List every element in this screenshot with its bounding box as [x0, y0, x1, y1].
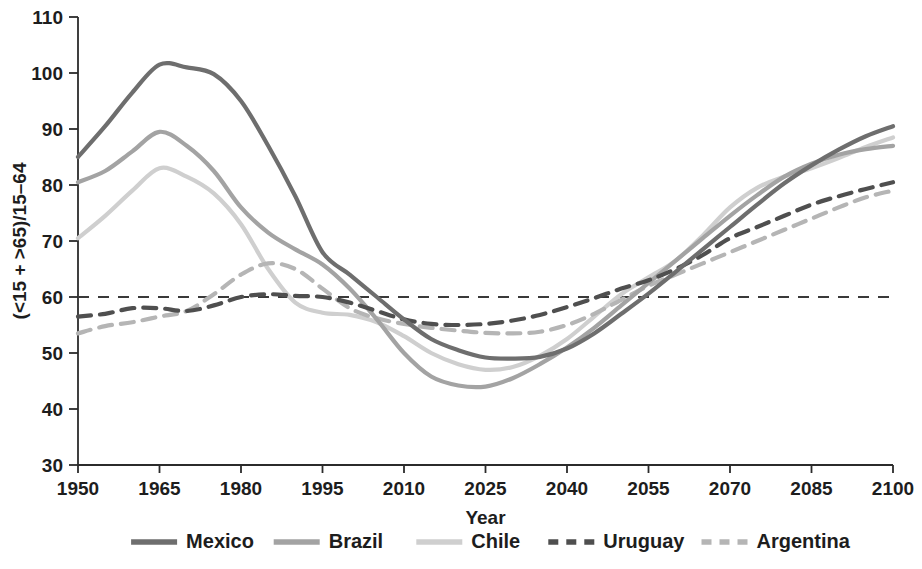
y-tick-label: 100: [31, 63, 63, 84]
y-tick-label: 30: [42, 455, 63, 476]
x-tick-label: 1965: [138, 478, 181, 499]
x-tick-label: 2100: [872, 478, 914, 499]
y-tick-label: 40: [42, 399, 63, 420]
x-tick-label: 2025: [464, 478, 507, 499]
series-line-uruguay: [78, 182, 893, 325]
series-line-mexico: [78, 63, 893, 359]
y-tick-label: 50: [42, 343, 63, 364]
axis-titles: (<15 + >65)/15–64 Year: [9, 162, 506, 528]
legend-label: Brazil: [329, 530, 383, 552]
x-tick-label: 1995: [301, 478, 344, 499]
legend-item-mexico[interactable]: Mexico: [131, 530, 254, 552]
x-tick-label: 1950: [57, 478, 99, 499]
legend-item-argentina[interactable]: Argentina: [702, 530, 851, 552]
y-tick-label: 110: [32, 7, 63, 28]
x-tick-label: 2085: [790, 478, 833, 499]
legend-label: Chile: [471, 530, 520, 552]
y-axis: 30405060708090100110: [31, 7, 78, 476]
x-tick-label: 1980: [220, 478, 262, 499]
series-lines: [78, 63, 893, 387]
legend-label: Mexico: [186, 530, 254, 552]
x-axis: 1950196519801995201020252040205520702085…: [57, 465, 914, 499]
line-chart: 30405060708090100110 1950196519801995201…: [0, 0, 922, 569]
series-line-brazil: [78, 132, 893, 387]
x-tick-label: 2070: [709, 478, 751, 499]
chart-figure: 30405060708090100110 1950196519801995201…: [0, 0, 922, 569]
series-line-argentina: [78, 191, 893, 334]
x-tick-label: 2010: [383, 478, 425, 499]
legend-item-chile[interactable]: Chile: [416, 530, 520, 552]
chart-legend: MexicoBrazilChileUruguayArgentina: [131, 530, 851, 552]
x-tick-label: 2040: [546, 478, 588, 499]
series-line-chile: [78, 137, 893, 370]
x-tick-label: 2055: [627, 478, 670, 499]
y-tick-label: 60: [42, 287, 63, 308]
y-axis-title: (<15 + >65)/15–64: [9, 162, 30, 319]
legend-label: Argentina: [757, 530, 851, 552]
legend-label: Uruguay: [603, 530, 685, 552]
x-axis-title: Year: [465, 507, 506, 528]
y-tick-label: 80: [42, 175, 63, 196]
y-tick-label: 70: [42, 231, 63, 252]
y-tick-label: 90: [42, 119, 63, 140]
legend-item-brazil[interactable]: Brazil: [274, 530, 383, 552]
legend-item-uruguay[interactable]: Uruguay: [548, 530, 685, 552]
